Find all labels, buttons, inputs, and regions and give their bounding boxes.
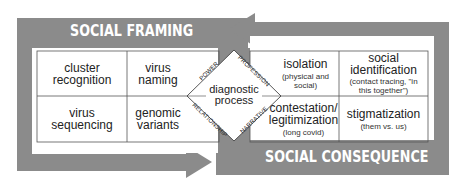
cell-isolation: isolation (physical and social) — [272, 51, 339, 96]
cell-label-line2: legitimization — [269, 114, 338, 126]
cell-sublabel: (physical and social) — [272, 72, 339, 90]
diagnostic-process-label: diagnostic process — [204, 84, 264, 106]
cell-sublabel-line1: (contact tracing, "in — [349, 77, 417, 86]
cell-social-identification: social identification (contact tracing, … — [339, 51, 428, 96]
cell-sublabel-line2: this together") — [359, 86, 409, 95]
cell-label: cluster recognition — [47, 62, 117, 86]
cell-contestation-legitimization: contestation/ legitimization (long covid… — [268, 96, 339, 142]
cell-sublabel: (long covid) — [283, 128, 324, 137]
cell-virus-sequencing: virus sequencing — [37, 96, 127, 142]
cell-label: virus naming — [133, 62, 183, 86]
cell-genomic-variants: genomic variants — [127, 96, 189, 142]
diagram-canvas: SOCIAL FRAMING SOCIAL CONSEQUENCE cluste… — [0, 0, 464, 186]
cell-label: virus sequencing — [47, 107, 117, 131]
center-label-line2: process — [204, 95, 264, 106]
cell-stigmatization: stigmatization (them vs. us) — [339, 96, 428, 142]
cell-label: stigmatization — [347, 108, 420, 120]
social-consequence-banner: SOCIAL CONSEQUENCE — [265, 148, 428, 166]
cell-label-line1: contestation/ — [269, 102, 337, 114]
cell-virus-naming: virus naming — [127, 51, 189, 96]
cell-label: genomic variants — [133, 107, 183, 131]
social-framing-banner: SOCIAL FRAMING — [70, 22, 193, 40]
cell-label-line2: identification — [350, 64, 417, 76]
cell-label: isolation — [283, 58, 327, 70]
cell-sublabel: (them vs. us) — [360, 122, 406, 131]
cell-cluster-recognition: cluster recognition — [37, 51, 127, 96]
